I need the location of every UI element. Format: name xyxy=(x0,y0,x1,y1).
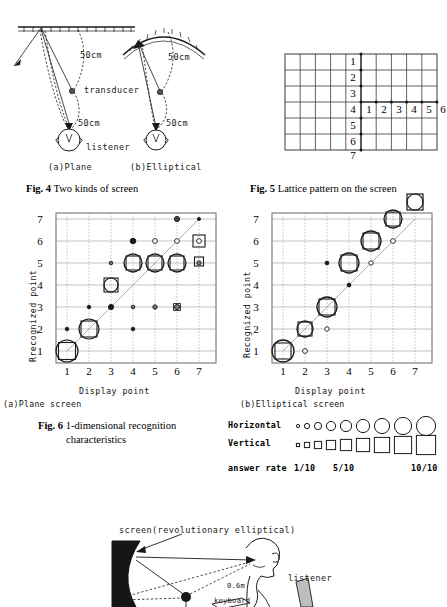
legend-rate-min: 1/10 xyxy=(294,463,315,473)
fig5-vertical-number: 7 xyxy=(347,149,359,161)
fig5-vertical-number: 3 xyxy=(347,87,359,99)
fig5-vertical-number: 6 xyxy=(347,135,359,147)
fig5-vertical-number: 4 xyxy=(347,103,359,115)
chart-elliptical-sublabel: (b)Elliptical screen xyxy=(240,399,345,409)
chart-plane-xtick: 2 xyxy=(83,365,95,377)
fig5-horizontal-number: 3 xyxy=(393,103,405,115)
chart-elliptical-plot-area xyxy=(265,208,445,378)
legend-vertical-label: Vertical xyxy=(228,438,271,448)
legend-answer-rate-label: answer rate xyxy=(228,463,287,473)
chart-plane-ytick: 7 xyxy=(34,213,46,225)
chart-elliptical-ytick: 2 xyxy=(250,323,262,335)
chart-elliptical-xtick: 4 xyxy=(343,365,355,377)
chart-elliptical-ytick: 6 xyxy=(250,235,262,247)
chart-plane-xtick: 3 xyxy=(105,365,117,377)
chart-elliptical-ytick: 3 xyxy=(250,301,262,313)
figure-6-caption-line2: characteristics xyxy=(66,434,126,445)
fig4-a-distance-lower-label: 50cm xyxy=(78,118,100,128)
fig4-a-transducer-label: transducer xyxy=(84,85,139,95)
fig5-vertical-number: 2 xyxy=(347,71,359,83)
figure-6-legend: Horizontal Vertical xyxy=(228,416,447,478)
fig5-horizontal-number: 4 xyxy=(408,103,420,115)
figure-6-caption-line1: 1-dimensional recognition xyxy=(66,420,177,431)
chart-plane-plot-area xyxy=(49,208,224,378)
fig5-horizontal-number: 2 xyxy=(378,103,390,115)
chart-plane-ytick: 2 xyxy=(34,323,46,335)
figure-6-caption: Fig. 6 1-dimensional recognition xyxy=(38,420,176,431)
chart-plane-xtick: 5 xyxy=(149,365,161,377)
chart-plane-xtick: 4 xyxy=(127,365,139,377)
fig7-keyboard-label: keyboard xyxy=(214,596,250,605)
fig5-horizontal-number: 1 xyxy=(363,103,375,115)
fig5-horizontal-number: 5 xyxy=(423,103,435,115)
fig7-distance-label: 0.6m xyxy=(227,581,245,590)
chart-plane-sublabel: (a)Plane screen xyxy=(3,399,81,409)
fig7-screen-label: screen(revolutionary elliptical) xyxy=(119,525,296,535)
fig7-listener-label: listener xyxy=(288,573,332,583)
chart-elliptical-ytick: 7 xyxy=(250,213,262,225)
figure-4: 50cm transducer 50cm listener (a)Plane 5… xyxy=(0,14,215,164)
fig5-vertical-number: 5 xyxy=(347,119,359,131)
chart-plane-xlabel: Display point xyxy=(79,386,150,396)
legend-rate-max: 10/10 xyxy=(411,463,438,473)
fig4-b-distance-upper-label: 50cm xyxy=(168,52,190,62)
figure-4-caption-label: Fig. 4 xyxy=(26,183,51,194)
legend-marker-scale xyxy=(294,415,444,461)
figure-page: 50cm transducer 50cm listener (a)Plane 5… xyxy=(0,0,447,607)
chart-elliptical-ytick: 1 xyxy=(250,345,262,357)
fig5-vertical-number: 1 xyxy=(347,55,359,67)
chart-plane-ytick: 6 xyxy=(34,235,46,247)
legend-rate-mid: 5/10 xyxy=(333,463,354,473)
fig4-b-distance-lower-label: 50cm xyxy=(166,118,188,128)
legend-horizontal-label: Horizontal xyxy=(228,420,281,430)
figure-6-caption-line2-wrap: characteristics xyxy=(66,434,126,445)
chart-elliptical-xtick: 7 xyxy=(409,365,421,377)
chart-elliptical-xlabel: Display point xyxy=(295,386,366,396)
figure-7-setup: screen(revolutionary elliptical) xyxy=(0,520,447,607)
chart-plane-ytick: 4 xyxy=(34,279,46,291)
chart-elliptical-xtick: 6 xyxy=(387,365,399,377)
fig4-a-distance-upper-label: 50cm xyxy=(80,50,102,60)
chart-plane-xtick: 7 xyxy=(193,365,205,377)
fig4-b-sublabel: (b)Elliptical xyxy=(130,162,202,172)
figure-5-caption-text: Lattice pattern on the screen xyxy=(278,183,397,194)
chart-elliptical-xtick: 1 xyxy=(277,365,289,377)
figure-4-caption: Fig. 4 Two kinds of screen xyxy=(26,183,138,194)
chart-plane-ytick: 3 xyxy=(34,301,46,313)
chart-elliptical-xtick: 5 xyxy=(365,365,377,377)
chart-elliptical-xtick: 3 xyxy=(321,365,333,377)
fig4-a-sublabel: (a)Plane xyxy=(48,162,92,172)
fig4-a-listener-label: listener xyxy=(86,142,130,152)
chart-plane-ytick: 1 xyxy=(34,345,46,357)
figure-5: 1 2 3 4 5 6 7 1 2 3 4 5 6 xyxy=(283,48,447,160)
chart-elliptical-screen: Recognized point 7 6 5 4 3 2 1 xyxy=(236,208,447,378)
chart-elliptical-ytick: 4 xyxy=(250,279,262,291)
chart-plane-ytick: 5 xyxy=(34,257,46,269)
chart-elliptical-ytick: 5 xyxy=(250,257,262,269)
chart-plane-xtick: 6 xyxy=(171,365,183,377)
figure-5-caption-label: Fig. 5 xyxy=(250,183,275,194)
figure-4-caption-text: Two kinds of screen xyxy=(54,183,139,194)
chart-plane-xtick: 1 xyxy=(61,365,73,377)
chart-plane-screen: Rrecognized point 7 6 5 4 3 2 1 xyxy=(18,208,224,378)
figure-5-caption: Fig. 5 Lattice pattern on the screen xyxy=(250,183,397,194)
figure-6-caption-label: Fig. 6 xyxy=(38,420,63,431)
chart-elliptical-xtick: 2 xyxy=(299,365,311,377)
fig5-horizontal-number: 6 xyxy=(437,103,447,115)
